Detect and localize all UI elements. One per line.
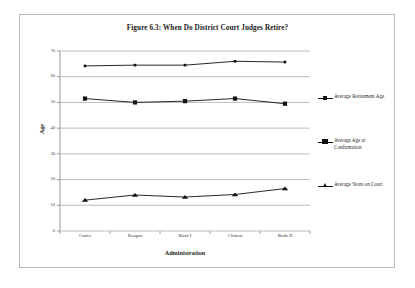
y-tick-label: 50 <box>39 100 55 105</box>
x-tick-label: Clinton <box>210 234 260 239</box>
y-tick-label: 70 <box>39 49 55 54</box>
legend-label: Average Retirement Age <box>333 93 384 100</box>
x-tick-label: Reagan <box>110 234 160 239</box>
legend-marker-icon <box>318 138 333 147</box>
chart-canvas <box>60 51 310 231</box>
data-point-marker <box>84 65 87 68</box>
legend-label: Average Years on Court <box>333 181 383 188</box>
data-series-layer <box>82 60 288 202</box>
data-point-marker <box>184 64 187 67</box>
legend: Average Retirement AgeAverage Age at Con… <box>318 93 394 225</box>
data-point-marker <box>133 100 137 104</box>
figure-container: Figure 6.3: When Do District Court Judge… <box>0 0 415 288</box>
data-point-marker <box>233 96 237 100</box>
data-point-marker <box>134 64 137 67</box>
gridlines <box>60 51 310 231</box>
legend-label: Average Age at Confirmation <box>333 137 394 152</box>
x-tick-label: Bush II <box>260 234 310 239</box>
legend-entry[interactable]: Average Years on Court <box>318 181 394 197</box>
data-point-marker <box>183 99 187 103</box>
legend-entry[interactable]: Average Retirement Age <box>318 93 394 109</box>
data-point-marker <box>284 61 287 64</box>
plot-area <box>60 51 310 231</box>
data-point-marker <box>234 60 237 63</box>
y-tick-label: 20 <box>39 177 55 182</box>
data-point-marker <box>282 186 288 190</box>
y-tick-label: 10 <box>39 203 55 208</box>
y-tick-label: 60 <box>39 74 55 79</box>
x-tick-label: Carter <box>60 234 110 239</box>
data-point-marker <box>283 102 287 106</box>
legend-marker-icon <box>318 182 333 191</box>
x-axis-title: Administration <box>60 249 310 256</box>
x-tick-label: Bush I <box>160 234 210 239</box>
page-title: Figure 6.3: When Do District Court Judge… <box>0 24 415 32</box>
y-tick-label: 40 <box>39 126 55 131</box>
legend-entry[interactable]: Average Age at Confirmation <box>318 137 394 153</box>
y-tick-label: 30 <box>39 152 55 157</box>
legend-marker-icon <box>318 94 333 103</box>
data-point-marker <box>83 96 87 100</box>
y-tick-label: 0 <box>39 229 55 234</box>
axis-lines <box>57 51 310 234</box>
